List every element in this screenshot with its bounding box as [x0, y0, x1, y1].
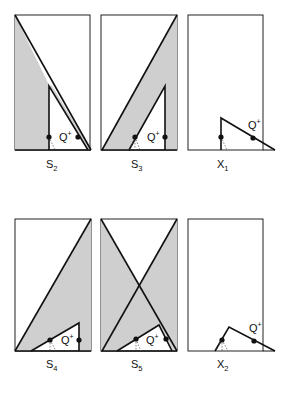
point-marker	[75, 134, 80, 139]
panel-x1: Q+ X1	[188, 15, 275, 173]
panel-s3: Q+ S3	[101, 15, 177, 173]
point-marker	[162, 134, 167, 139]
diagram-canvas: Q+ S2 Q+ S3 Q+ X1 Q+	[0, 0, 291, 393]
panel-label: X1	[217, 158, 229, 173]
panel-s5: Q+ S5	[101, 219, 177, 373]
panel-label: S3	[131, 158, 143, 173]
panel-label: S5	[131, 358, 143, 373]
panel-s4: Q+ S4	[15, 219, 91, 373]
point-marker	[251, 338, 256, 343]
panel-label: S4	[46, 358, 58, 373]
point-marker	[163, 336, 168, 341]
point-marker	[133, 336, 138, 341]
panel-label: S2	[46, 158, 58, 173]
point-marker	[219, 337, 224, 342]
panel-label: X2	[217, 358, 229, 373]
panel-s2: Q+ S2	[15, 15, 91, 173]
point-marker	[218, 134, 223, 139]
point-marker	[76, 337, 81, 342]
point-marker	[46, 134, 51, 139]
point-marker	[250, 135, 255, 140]
panel-x2: Q+ X2	[188, 219, 275, 373]
point-marker	[47, 337, 52, 342]
point-marker	[132, 134, 137, 139]
